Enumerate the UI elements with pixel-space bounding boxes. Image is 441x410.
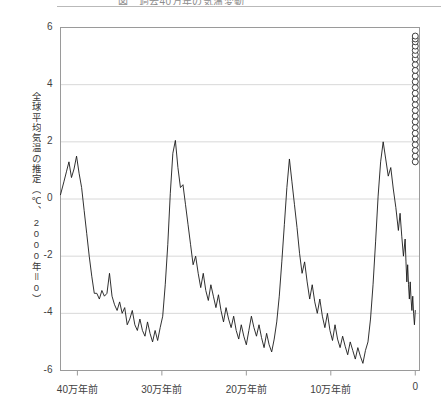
projection-marker — [412, 159, 418, 165]
climate-line-chart: 全球平均気温の推定（℃、2000年＝0） 6420-2-4-6 40万年前30万… — [0, 0, 441, 410]
projection-marker — [412, 85, 418, 91]
x-tick-marks-group — [77, 371, 415, 376]
x-tick-label: 10万年前 — [296, 381, 366, 396]
y-tick-label: 2 — [31, 135, 53, 146]
y-tick-label: 6 — [31, 21, 53, 32]
projection-marker — [412, 33, 418, 39]
projection-marker — [412, 130, 418, 136]
projection-marker — [412, 153, 418, 159]
projection-marker — [412, 73, 418, 79]
projection-marker — [412, 79, 418, 85]
y-tick-label: 4 — [31, 78, 53, 89]
y-tick-label: -4 — [31, 306, 53, 317]
projection-marker — [412, 67, 418, 73]
gridlines-group — [61, 85, 420, 314]
x-tick-label: 0 — [380, 381, 441, 392]
projection-marker — [412, 90, 418, 96]
temperature-line-series — [61, 140, 416, 363]
y-tick-label: -2 — [31, 249, 53, 260]
x-tick-label: 40万年前 — [42, 381, 112, 396]
x-tick-label: 30万年前 — [127, 381, 197, 396]
projection-marker — [412, 102, 418, 108]
projection-markers-series — [412, 33, 418, 165]
y-tick-label: -6 — [31, 364, 53, 375]
y-tick-label: 0 — [31, 192, 53, 203]
projection-marker — [412, 142, 418, 148]
projection-marker — [412, 113, 418, 119]
x-tick-label: 20万年前 — [211, 381, 281, 396]
projection-marker — [412, 62, 418, 68]
projection-marker — [412, 119, 418, 125]
projection-marker — [412, 125, 418, 131]
projection-marker — [412, 136, 418, 142]
projection-marker — [412, 147, 418, 153]
chart-canvas — [0, 0, 441, 410]
temperature-line-path — [61, 140, 416, 363]
projection-marker — [412, 96, 418, 102]
chart-page: 図 過去40万年の気温変動 全球平均気温の推定（℃、2000年＝0） 6420-… — [0, 0, 441, 410]
projection-marker — [412, 107, 418, 113]
